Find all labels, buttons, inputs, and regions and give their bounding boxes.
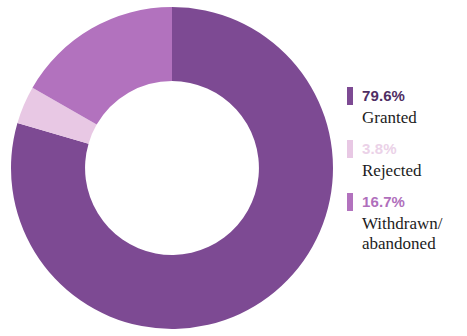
legend-item-withdrawn-row: 16.7% — [347, 192, 467, 212]
legend-swatch-rejected — [347, 140, 353, 158]
legend-percent-rejected: 3.8% — [362, 140, 397, 158]
legend-label-granted: Granted — [362, 108, 467, 128]
chart-page: 79.6% Granted 3.8% Rejected 16.7% Withdr… — [0, 0, 467, 336]
legend-item-withdrawn: 16.7% Withdrawn/ abandoned — [347, 192, 467, 254]
legend-swatch-withdrawn — [347, 193, 353, 211]
legend-item-rejected-row: 3.8% — [347, 139, 467, 159]
chart-legend: 79.6% Granted 3.8% Rejected 16.7% Withdr… — [347, 86, 467, 265]
legend-swatch-granted — [347, 87, 353, 105]
donut-slice-group — [11, 7, 333, 329]
legend-item-rejected: 3.8% Rejected — [347, 139, 467, 181]
legend-item-granted-row: 79.6% — [347, 86, 467, 106]
donut-chart-svg — [10, 6, 334, 330]
donut-chart — [10, 6, 334, 330]
legend-percent-granted: 79.6% — [362, 87, 405, 105]
legend-label-withdrawn: Withdrawn/ abandoned — [362, 214, 467, 254]
legend-percent-withdrawn: 16.7% — [362, 193, 405, 211]
legend-label-rejected: Rejected — [362, 161, 467, 181]
legend-item-granted: 79.6% Granted — [347, 86, 467, 128]
